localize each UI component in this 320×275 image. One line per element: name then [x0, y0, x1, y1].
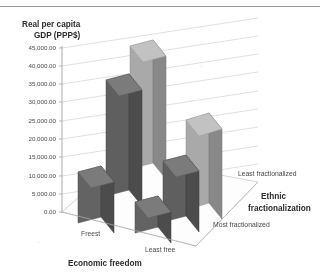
x-category-freest: Freest — [81, 230, 100, 237]
y-tick-label: 10,000.00 — [28, 172, 56, 179]
y-axis-title-line2: GDP (PPP$) — [34, 31, 81, 40]
bar-side-face — [153, 40, 166, 179]
z-category-most-fractionalized: Most fractionalized — [213, 221, 270, 228]
y-axis-title-line1: Real per capita — [22, 20, 81, 29]
z-axis-title-line2: fractionalization — [248, 204, 311, 213]
gridline-45000 — [62, 18, 258, 48]
y-tick-label: 40,000.00 — [28, 62, 56, 69]
bar-side-face — [129, 74, 142, 206]
y-tick-label: 25,000.00 — [28, 117, 56, 124]
y-tick-label: 45,000.00 — [28, 44, 56, 51]
y-tick-label: 0.00 — [44, 208, 57, 215]
y-tick-labels: 45,000.00 40,000.00 35,000.00 30,000.00 … — [28, 44, 56, 215]
x-category-least-free: Least free — [145, 246, 175, 253]
bar-freest-most-fractionalized[interactable] — [78, 166, 114, 233]
y-tick-label: 5,000.00 — [32, 190, 57, 197]
y-tick-label: 30,000.00 — [28, 98, 56, 105]
z-category-least-fractionalized: Least fractionalized — [238, 170, 297, 177]
chart-container: 45,000.00 40,000.00 35,000.00 30,000.00 … — [0, 0, 320, 275]
y-tick-label: 20,000.00 — [28, 135, 56, 142]
x-axis-title: Economic freedom — [68, 259, 142, 268]
bar-chart-3d: 45,000.00 40,000.00 35,000.00 30,000.00 … — [0, 0, 320, 275]
y-tick-label: 35,000.00 — [28, 80, 56, 87]
y-tick-label: 15,000.00 — [28, 153, 56, 160]
z-axis-title-line1: Ethnic — [261, 192, 286, 201]
